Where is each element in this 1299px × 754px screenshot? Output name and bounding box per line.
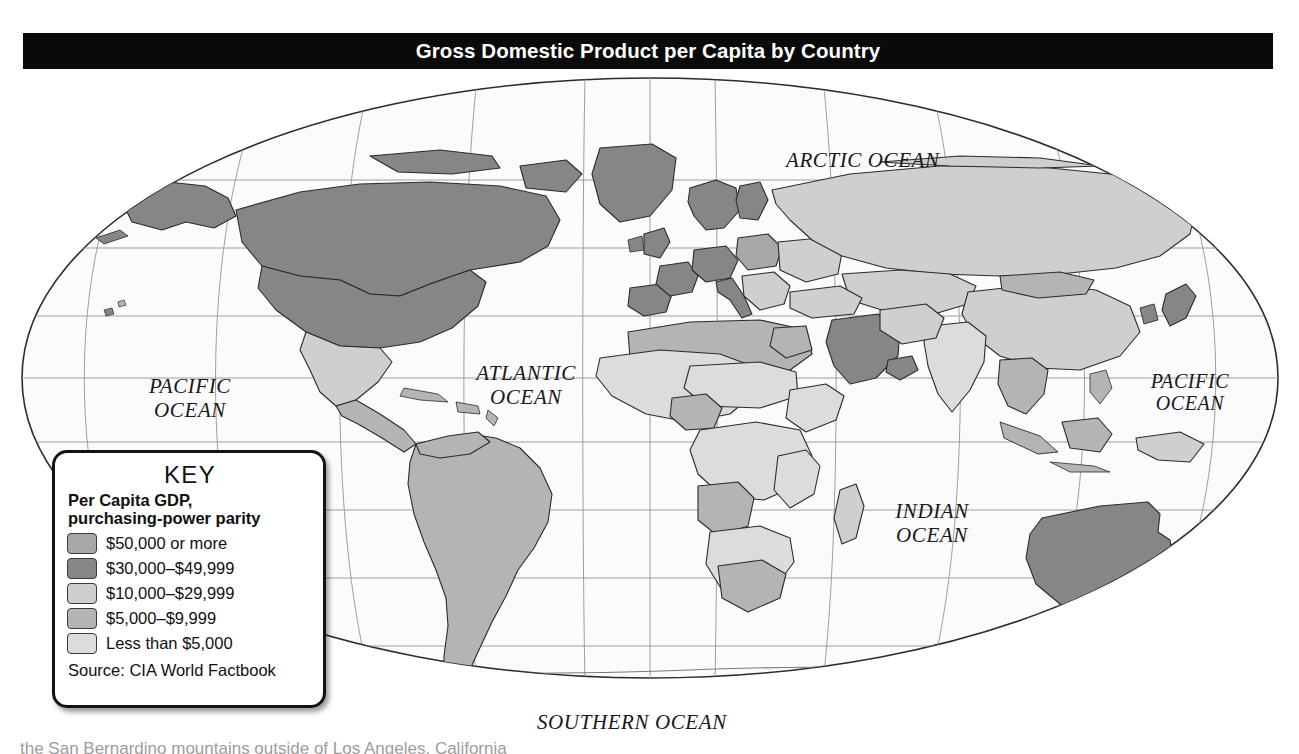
southern-ocean-label: SOUTHERN OCEAN (537, 711, 727, 735)
map-legend: KEY Per Capita GDP, purchasing-power par… (52, 450, 326, 708)
arctic-ocean-label: ARCTIC OCEAN (786, 149, 940, 173)
legend-row: $5,000–$9,999 (67, 606, 313, 631)
page-title: Gross Domestic Product per Capita by Cou… (416, 39, 881, 63)
legend-swatch-10000-29999 (67, 583, 97, 604)
legend-subtitle: Per Capita GDP, purchasing-power parity (68, 491, 313, 528)
germany-central-europe (692, 246, 738, 282)
pacific-ocean-label-east: PACIFIC OCEAN (1124, 370, 1256, 415)
legend-swatch-30000-49999 (67, 558, 97, 579)
new-zealand-north (1216, 554, 1238, 578)
legend-label: $50,000 or more (106, 534, 227, 553)
pacific-ocean-label-west: PACIFIC OCEAN (120, 375, 260, 422)
page-bottom-cutoff-text: the San Bernardino mountains outside of … (20, 739, 1280, 754)
legend-label: Less than $5,000 (106, 634, 233, 653)
map-title-bar: Gross Domestic Product per Capita by Cou… (23, 33, 1273, 69)
legend-swatch-5000-9999 (67, 608, 97, 629)
legend-swatch-50000-or-more (67, 533, 97, 554)
legend-class-list: $50,000 or more $30,000–$49,999 $10,000–… (67, 531, 313, 656)
legend-row: $50,000 or more (67, 531, 313, 556)
map-page: Gross Domestic Product per Capita by Cou… (0, 0, 1299, 754)
indian-ocean-label: INDIAN OCEAN (868, 500, 996, 547)
legend-row: $30,000–$49,999 (67, 556, 313, 581)
legend-row: $10,000–$29,999 (67, 581, 313, 606)
tasmania (1112, 614, 1132, 630)
legend-label: $30,000–$49,999 (106, 559, 234, 578)
legend-label: $5,000–$9,999 (106, 609, 216, 628)
legend-swatch-less-than-5000 (67, 633, 97, 654)
legend-heading: KEY (67, 461, 313, 489)
legend-label: $10,000–$29,999 (106, 584, 234, 603)
legend-source: Source: CIA World Factbook (68, 661, 313, 680)
legend-row: Less than $5,000 (67, 631, 313, 656)
new-zealand-south (1192, 576, 1222, 610)
atlantic-ocean-label: ATLANTIC OCEAN (446, 362, 606, 409)
